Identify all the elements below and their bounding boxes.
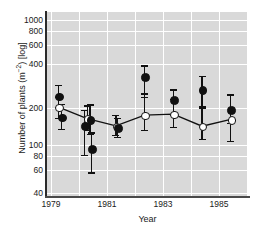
error-bar-cap — [141, 130, 148, 131]
data-point-filled — [141, 73, 150, 82]
error-bar-cap — [199, 108, 206, 109]
error-bar-cap — [114, 137, 121, 138]
error-bar-cap — [199, 76, 206, 77]
error-bar-cap — [227, 141, 234, 142]
x-axis-line — [45, 196, 250, 198]
data-point-filled — [114, 124, 123, 133]
data-point-filled — [170, 96, 179, 105]
y-axis-line — [45, 11, 47, 197]
data-point-filled — [199, 86, 208, 95]
error-bar-cap — [141, 65, 148, 66]
error-bar-cap — [114, 118, 121, 119]
error-bar-cap — [141, 97, 148, 98]
error-bar-cap — [199, 106, 206, 107]
series-connector-line — [47, 12, 248, 196]
data-point-filled — [227, 106, 236, 115]
chart-figure: 1000 800 600 400 200 100 80 60 40 — [0, 0, 269, 239]
error-bar-cap — [55, 85, 62, 86]
error-bar-cap — [170, 127, 177, 128]
error-bar-cap — [81, 155, 88, 156]
plot-area — [47, 12, 248, 196]
x-tick-label: 1983 — [143, 199, 183, 209]
error-bar-cap — [87, 104, 94, 105]
error-bar-cap — [81, 110, 88, 111]
error-bar-cap — [88, 172, 95, 173]
data-point-filled — [55, 93, 64, 102]
data-point-filled — [58, 114, 67, 123]
data-point-filled — [88, 145, 97, 154]
error-bar-cap — [170, 89, 177, 90]
error-bar-cap — [58, 129, 65, 130]
x-tick-label: 1985 — [199, 199, 239, 209]
error-bar-cap — [112, 115, 119, 116]
x-axis-title: Year — [47, 214, 248, 224]
error-bar-cap — [227, 94, 234, 95]
x-tick-label: 1981 — [87, 199, 127, 209]
error-bar-cap — [88, 132, 95, 133]
data-point-open — [228, 116, 236, 124]
data-point-filled — [87, 116, 96, 125]
error-bar-cap — [199, 139, 206, 140]
x-tick-label: 1979 — [31, 199, 71, 209]
data-point-open — [55, 104, 63, 112]
y-axis-title: Number of plants (m−2) [log] — [15, 3, 27, 193]
data-point-open — [170, 111, 178, 119]
